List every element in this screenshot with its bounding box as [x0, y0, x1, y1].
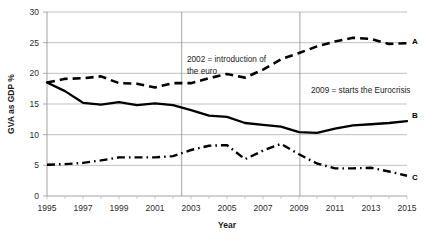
y-tick-marks [43, 12, 47, 196]
x-tick-label: 2005 [218, 203, 237, 213]
annotation-eurocrisis-line1: 2009 = starts the Eurocrisis [311, 86, 410, 95]
y-tick-label: 5 [34, 160, 39, 170]
series-label-a: A [412, 37, 418, 46]
x-tick-label: 1997 [74, 203, 93, 213]
x-tick-label: 2013 [362, 203, 381, 213]
y-tick-labels: 30 25 20 15 10 5 0 [30, 7, 40, 201]
annotation-euro-line2: the euro [187, 67, 217, 76]
annotation-euro-line1: 2002 = introduction of [187, 55, 267, 64]
x-tick-label: 2011 [326, 203, 345, 213]
series-label-c: C [412, 173, 418, 182]
y-tick-label: 20 [30, 68, 40, 78]
x-axis-title: Year [218, 220, 237, 230]
chart-container: 30 25 20 15 10 5 0 1995 1997 1999 2001 2… [0, 0, 445, 247]
x-tick-label: 2009 [290, 203, 309, 213]
y-tick-label: 25 [30, 38, 40, 48]
y-tick-label: 0 [34, 191, 39, 201]
y-tick-label: 30 [30, 7, 40, 17]
x-tick-label: 1999 [110, 203, 129, 213]
y-tick-label: 15 [30, 99, 40, 109]
series-label-b: B [412, 111, 418, 120]
y-axis-title: GVA as GDP % [6, 74, 16, 134]
y-tick-label: 10 [30, 130, 40, 140]
x-tick-label: 2003 [182, 203, 201, 213]
x-tick-marks [47, 196, 407, 200]
line-chart: 30 25 20 15 10 5 0 1995 1997 1999 2001 2… [0, 0, 445, 247]
x-tick-label: 2015 [398, 203, 417, 213]
x-tick-label: 2001 [146, 203, 165, 213]
annotation-eurocrisis: 2009 = starts the Eurocrisis [311, 86, 410, 95]
x-tick-label: 1995 [38, 203, 57, 213]
x-tick-label: 2007 [254, 203, 273, 213]
x-tick-labels: 1995 1997 1999 2001 2003 2005 2007 2009 … [38, 203, 417, 213]
